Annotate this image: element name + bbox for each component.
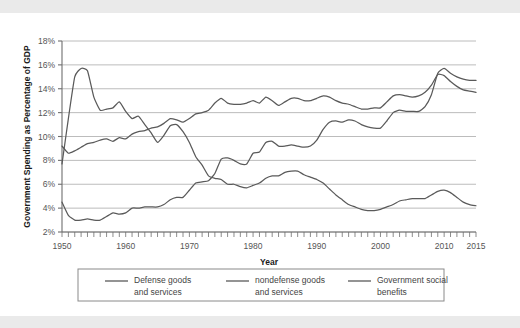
- x-tick-label: 1950: [53, 241, 72, 251]
- legend: Defense goodsand servicesnondefense good…: [105, 275, 448, 297]
- y-tick-label: 6%: [43, 179, 56, 189]
- y-axis-ticks: 2%4%6%8%10%12%14%16%18%: [38, 36, 62, 237]
- x-tick-label: 1960: [116, 241, 135, 251]
- legend-label-line1-2: Government social: [377, 275, 448, 285]
- y-tick-label: 8%: [43, 155, 56, 165]
- legend-item-0: Defense goodsand services: [105, 275, 191, 297]
- x-axis-ticks: 19501960197019801990200020102015: [53, 232, 486, 251]
- x-tick-label: 2010: [435, 241, 454, 251]
- x-tick-label: 2000: [371, 241, 390, 251]
- x-tick-label: 2015: [467, 241, 486, 251]
- x-tick-label: 1970: [180, 241, 199, 251]
- x-tick-label: 1990: [307, 241, 326, 251]
- x-tick-label: 1980: [244, 241, 263, 251]
- y-tick-label: 4%: [43, 203, 56, 213]
- y-tick-label: 12%: [38, 108, 55, 118]
- legend-label-line2-2: benefits: [377, 287, 407, 297]
- series-line-2: [62, 68, 476, 220]
- legend-item-2: Government socialbenefits: [348, 275, 448, 297]
- y-tick-label: 2%: [43, 227, 56, 237]
- y-tick-label: 14%: [38, 84, 55, 94]
- y-axis-title: Government Spending as Percentage of GDP: [22, 45, 32, 228]
- y-tick-label: 16%: [38, 60, 55, 70]
- chart-figure: 2%4%6%8%10%12%14%16%18%19501960197019801…: [0, 0, 520, 328]
- legend-label-line2-0: and services: [134, 287, 182, 297]
- legend-item-1: nondefense goodsand services: [226, 275, 325, 297]
- legend-label-line1-1: nondefense goods: [255, 275, 325, 285]
- top-decorative-band: [0, 0, 520, 13]
- legend-label-line1-0: Defense goods: [134, 275, 191, 285]
- gridlines: [62, 41, 476, 232]
- legend-label-line2-1: and services: [255, 287, 303, 297]
- bottom-decorative-band: [0, 316, 520, 328]
- series-line-0: [62, 68, 476, 210]
- y-tick-label: 18%: [38, 36, 55, 46]
- line-chart: 2%4%6%8%10%12%14%16%18%19501960197019801…: [0, 0, 520, 328]
- y-tick-label: 10%: [38, 132, 55, 142]
- series-group: [62, 68, 476, 220]
- x-axis-title: Year: [260, 257, 279, 267]
